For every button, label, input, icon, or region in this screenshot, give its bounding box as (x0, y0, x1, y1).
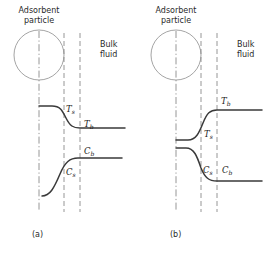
temperature-curve-b (176, 110, 262, 140)
adsorbent-particle-label-b: Adsorbent particle (141, 6, 211, 26)
bulk-concentration-label-b: Cb (222, 165, 232, 175)
bulk-fluid-label-b: Bulk fluid (237, 40, 274, 60)
panel-caption-a: (a) (32, 230, 43, 239)
surface-concentration-label-a: Cs (66, 167, 76, 177)
adsorbent-particle-label-a: Adsorbent particle (4, 6, 74, 26)
surface-temperature-label-b: Ts (204, 129, 213, 139)
bulk-temperature-label-b: Tb (221, 96, 231, 106)
concentration-curve-a (42, 158, 122, 196)
panel-caption-b: (b) (170, 230, 181, 239)
adsorption-profiles-figure (0, 0, 274, 256)
temperature-curve-a (39, 106, 125, 128)
bulk-fluid-label-a: Bulk fluid (100, 40, 140, 60)
surface-concentration-label-b: Cs (203, 165, 213, 175)
bulk-concentration-label-a: Cb (84, 146, 94, 156)
concentration-curve-b (176, 148, 262, 181)
surface-temperature-label-a: Ts (66, 104, 75, 114)
bulk-temperature-label-a: Tb (84, 119, 94, 129)
